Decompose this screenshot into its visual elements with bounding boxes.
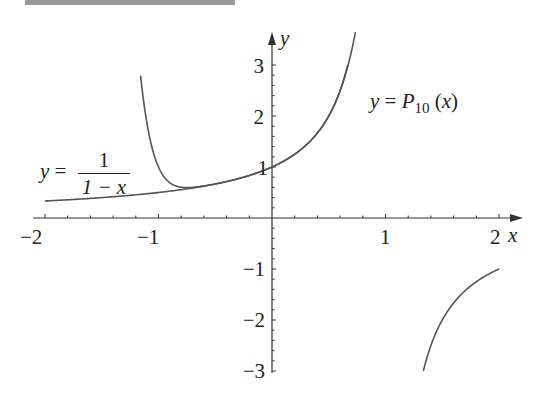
- fraction: 11 − x: [78, 147, 131, 200]
- annotation-arg: x: [442, 89, 451, 113]
- y-tick-label-1: 1: [258, 156, 269, 180]
- y-axis-label: y: [278, 26, 290, 50]
- geometric-series-annotation: y = 11 − x: [40, 147, 130, 200]
- annotation-eq: =: [49, 159, 71, 183]
- x-tick-label-2: 2: [490, 225, 501, 249]
- polynomial-annotation: y = P10 (x): [370, 89, 458, 117]
- annotation-eq: =: [379, 89, 401, 113]
- annotation-lhs: y: [370, 89, 379, 113]
- x-tick-label-1: 1: [380, 225, 391, 249]
- y-tick-label-3: 3: [254, 54, 265, 78]
- annotation-open: (: [430, 89, 442, 113]
- y-tick-label-neg1: −1: [243, 257, 265, 281]
- annotation-P: P: [402, 89, 415, 113]
- fraction-numerator: 1: [78, 147, 131, 174]
- annotation-close: ): [451, 89, 458, 113]
- axes: [33, 32, 523, 373]
- fraction-denominator: 1 − x: [78, 174, 131, 200]
- p10-curve: [141, 32, 356, 188]
- annotation-lhs: y: [40, 159, 49, 183]
- y-tick-label-neg3: −3: [243, 359, 265, 383]
- x-tick-label-neg1: −1: [137, 225, 159, 249]
- annotation-subscript: 10: [415, 100, 430, 116]
- x-tick-label-neg2: −2: [20, 225, 42, 249]
- y-axis-arrow-icon: [268, 32, 276, 45]
- x-axis-label: x: [507, 223, 518, 247]
- y-tick-label-neg2: −2: [243, 308, 265, 332]
- geometric-curve-right: [423, 269, 499, 371]
- x-axis-arrow-icon: [510, 214, 523, 222]
- y-tick-label-2: 2: [254, 105, 265, 129]
